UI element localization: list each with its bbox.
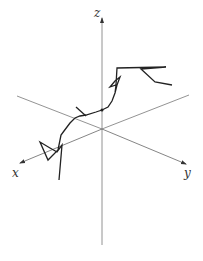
y-axis-label: y — [183, 166, 191, 180]
z-axis-label: z — [93, 6, 101, 20]
3d-axes-diagram: z x y — [0, 0, 203, 261]
x-axis-back — [102, 95, 189, 129]
y-axis-back — [17, 96, 102, 129]
x-axis-label: x — [12, 166, 19, 180]
space-curve — [40, 67, 172, 180]
y-axis — [102, 129, 186, 164]
